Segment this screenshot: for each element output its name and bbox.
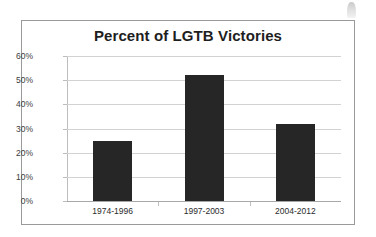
y-axis-tick-label: 10% [0, 172, 33, 182]
chart-frame: Percent of LGTB Victories 0%10%20%30%40%… [21, 20, 355, 225]
x-axis-tick-mark [158, 202, 159, 206]
y-axis-tick-label: 50% [0, 75, 33, 85]
bar[interactable] [93, 141, 132, 201]
plot-area [67, 56, 341, 201]
chart-title: Percent of LGTB Victories [22, 27, 354, 44]
x-axis-category-label: 1974-1996 [68, 206, 158, 216]
bar[interactable] [185, 75, 224, 201]
y-axis-tick-label: 20% [0, 148, 33, 158]
y-axis-tick-label: 60% [0, 51, 33, 61]
y-axis-tick-label: 30% [0, 124, 33, 134]
gridline [67, 56, 341, 57]
bar[interactable] [276, 124, 315, 201]
y-axis-tick-label: 40% [0, 99, 33, 109]
x-axis-tick-mark [250, 202, 251, 206]
x-axis-category-label: 1997-2003 [159, 206, 249, 216]
gridline [67, 201, 341, 202]
y-axis-tick-label: 0% [0, 196, 33, 206]
scan-smudge-artifact [347, 2, 356, 18]
x-axis-category-label: 2004-2012 [250, 206, 340, 216]
